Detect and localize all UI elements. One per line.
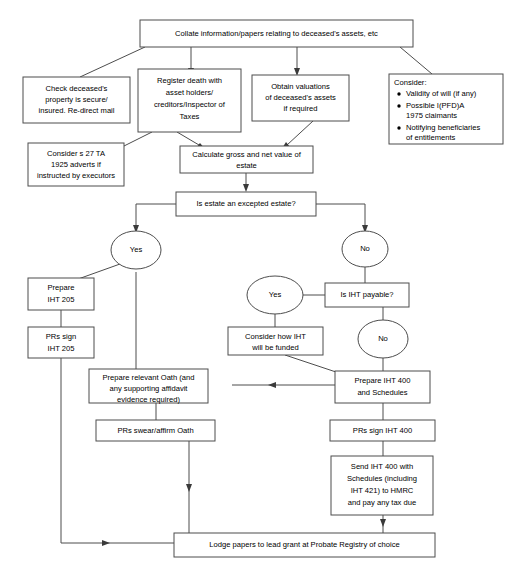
- node-s27-adverts-line-0: Consider s 27 TA: [47, 149, 106, 158]
- node-prs-sign-iht205-line-0: PRs sign: [46, 332, 76, 341]
- node-prepare-oath[interactable]: Prepare relevant Oath (and any supportin…: [89, 369, 208, 404]
- node-consider-list-bullet-2-line-0: Notifying beneficiaries: [406, 123, 480, 132]
- connector-register-death-to-calculate: [177, 132, 199, 145]
- connector-register-death-to-s27: [124, 132, 152, 146]
- node-prs-swear-oath[interactable]: PRs swear/affirm Oath: [96, 420, 215, 441]
- node-register-death-line-3: Taxes: [180, 112, 200, 121]
- node-obtain-valuations[interactable]: Obtain valuations of deceased's assets i…: [252, 75, 349, 121]
- arrowhead-prepare-oath-right: [268, 382, 276, 388]
- node-consider-funding-line-1: will be funded: [251, 343, 298, 352]
- node-no-excepted-label: No: [360, 244, 370, 253]
- node-obtain-valuations-line-2: if required: [284, 104, 318, 113]
- node-s27-adverts-line-1: 1925 adverts if: [51, 160, 102, 169]
- node-prepare-oath-line-2: evidence required): [117, 395, 180, 404]
- bullet-point-icon: [397, 126, 400, 129]
- node-consider-funding-line-0: Consider how IHT: [245, 332, 306, 341]
- node-send-iht400-line-0: Send IHT 400 with: [351, 462, 413, 471]
- flowchart-canvas: Collate information/papers relating to d…: [0, 0, 510, 584]
- node-send-iht400-line-2: IHT 421) to HMRC: [351, 486, 414, 495]
- node-yes-excepted[interactable]: Yes: [111, 231, 161, 269]
- node-consider-list-bullet-2-line-1: of entitlements: [406, 133, 456, 142]
- node-prepare-iht205[interactable]: Prepare IHT 205: [28, 278, 94, 310]
- flowchart-svg: Collate information/papers relating to d…: [0, 0, 510, 584]
- node-calculate-value-line-0: Calculate gross and net value of: [192, 150, 301, 159]
- node-consider-funding[interactable]: Consider how IHT will be funded: [228, 327, 323, 355]
- node-obtain-valuations-line-1: of deceased's assets: [265, 93, 336, 102]
- connector-excepted-to-no: [316, 204, 365, 227]
- node-prs-sign-iht205[interactable]: PRs sign IHT 205: [28, 327, 94, 358]
- node-prepare-iht205-line-0: Prepare: [47, 283, 74, 292]
- node-excepted-estate-line-0: Is estate an excepted estate?: [196, 199, 295, 208]
- node-yes-excepted-label: Yes: [130, 245, 143, 254]
- bullet-point-icon: [397, 92, 400, 95]
- node-prepare-iht205-line-1: IHT 205: [48, 295, 75, 304]
- node-lodge-papers-line-0: Lodge papers to lead grant at Probate Re…: [209, 540, 399, 549]
- node-send-iht400[interactable]: Send IHT 400 with Schedules (including I…: [331, 456, 433, 515]
- node-iht-payable[interactable]: Is IHT payable?: [325, 283, 409, 307]
- node-check-property-line-0: Check deceased's: [46, 84, 108, 93]
- node-s27-adverts-line-2: instructed by executors: [37, 171, 115, 180]
- connector-obtain-valuations-to-calculate: [287, 121, 313, 145]
- node-consider-list[interactable]: Consider: Validity of will (if any) Poss…: [389, 74, 503, 144]
- node-yes-iht-label: Yes: [269, 290, 282, 299]
- node-consider-list-bullet-1-line-0: Possible I(PFD)A: [406, 101, 465, 110]
- node-prepare-iht400[interactable]: Prepare IHT 400 and Schedules: [335, 371, 430, 403]
- node-register-death-line-2: creditors/Inspector of: [154, 100, 226, 109]
- node-collate-line-0: Collate information/papers relating to d…: [175, 29, 378, 38]
- arrowhead-lodge-left-rail: [102, 540, 110, 546]
- node-register-death-line-0: Register death with: [157, 76, 222, 85]
- node-prs-sign-iht400[interactable]: PRs sign IHT 400: [330, 420, 435, 441]
- node-send-iht400-line-1: Schedules (including: [347, 474, 417, 483]
- node-check-property-line-1: property is secure/: [45, 95, 108, 104]
- connector-excepted-to-yes: [136, 204, 176, 227]
- node-consider-list-bullet-1-line-1: 1975 claimants: [406, 111, 457, 120]
- node-prs-sign-iht205-line-1: IHT 205: [48, 344, 75, 353]
- connector-collate-to-consider-list: [400, 47, 432, 74]
- node-yes-iht[interactable]: Yes: [247, 276, 303, 314]
- arrowhead-excepted-estate: [243, 184, 249, 192]
- node-prepare-iht400-line-0: Prepare IHT 400: [354, 376, 410, 385]
- node-register-death[interactable]: Register death with asset holders/ credi…: [138, 69, 241, 132]
- node-no-iht-label: No: [378, 334, 388, 343]
- node-no-excepted[interactable]: No: [342, 231, 388, 267]
- arrowhead-lodge-right: [380, 519, 386, 527]
- node-prepare-iht400-line-1: and Schedules: [357, 388, 407, 397]
- node-check-property[interactable]: Check deceased's property is secure/ ins…: [23, 77, 130, 123]
- node-prs-sign-iht400-line-0: PRs sign IHT 400: [353, 426, 412, 435]
- node-calculate-value[interactable]: Calculate gross and net value of estate: [180, 146, 313, 173]
- node-collate[interactable]: Collate information/papers relating to d…: [140, 20, 413, 47]
- node-iht-payable-line-0: Is IHT payable?: [340, 290, 393, 299]
- bullet-point-icon: [397, 104, 400, 107]
- node-consider-list-bullet-0-line-0: Validity of will (if any): [406, 89, 477, 98]
- connector-collate-to-check-property: [80, 47, 145, 77]
- node-excepted-estate[interactable]: Is estate an excepted estate?: [176, 192, 316, 216]
- node-check-property-line-2: insured. Re-direct mail: [39, 106, 115, 115]
- node-prs-swear-oath-line-0: PRs swear/affirm Oath: [117, 426, 193, 435]
- node-consider-list-heading: Consider:: [394, 78, 427, 87]
- node-prepare-oath-line-1: any supporting affidavit: [110, 384, 189, 393]
- arrowhead-lodge-center: [186, 484, 192, 492]
- node-send-iht400-line-3: and pay any tax due: [348, 498, 416, 507]
- node-obtain-valuations-line-0: Obtain valuations: [271, 82, 330, 91]
- node-s27-adverts[interactable]: Consider s 27 TA 1925 adverts if instruc…: [28, 143, 124, 186]
- node-no-iht[interactable]: No: [358, 320, 408, 358]
- node-lodge-papers[interactable]: Lodge papers to lead grant at Probate Re…: [174, 533, 435, 557]
- node-calculate-value-line-1: estate: [236, 161, 257, 170]
- node-register-death-line-1: asset holders/: [166, 88, 214, 97]
- node-prepare-oath-line-0: Prepare relevant Oath (and: [102, 373, 194, 382]
